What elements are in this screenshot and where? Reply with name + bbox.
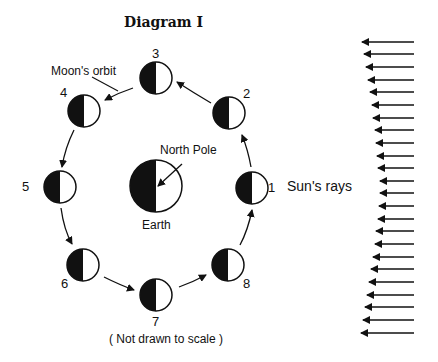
- earth-label: Earth: [142, 218, 171, 232]
- suns-rays-label: Sun's rays: [287, 178, 352, 194]
- moon-1-icon: [236, 172, 268, 204]
- moon-2-icon: [213, 97, 245, 129]
- north-pole-label: North Pole: [160, 143, 217, 157]
- moon-6-icon: [67, 249, 99, 281]
- not-to-scale-note: ( Not drawn to scale ): [109, 332, 223, 346]
- position-1-label: 1: [268, 180, 275, 195]
- earth-icon: [130, 160, 182, 212]
- position-8-label: 8: [243, 276, 250, 291]
- position-4-label: 4: [60, 85, 67, 100]
- position-7-label: 7: [152, 314, 159, 329]
- position-6-label: 6: [61, 276, 68, 291]
- moon-phases-diagram: [0, 0, 438, 362]
- position-3-label: 3: [152, 46, 159, 61]
- position-2-label: 2: [243, 86, 250, 101]
- moons-orbit-label: Moon's orbit: [51, 64, 116, 78]
- position-5-label: 5: [22, 179, 29, 194]
- moon-3-icon: [140, 62, 172, 94]
- moon-4-icon: [68, 95, 100, 127]
- suns-rays: [361, 42, 414, 333]
- moons-orbit-pointer: [92, 77, 118, 91]
- moon-8-icon: [212, 249, 244, 281]
- moon-5-icon: [44, 171, 76, 203]
- moon-7-icon: [140, 279, 172, 311]
